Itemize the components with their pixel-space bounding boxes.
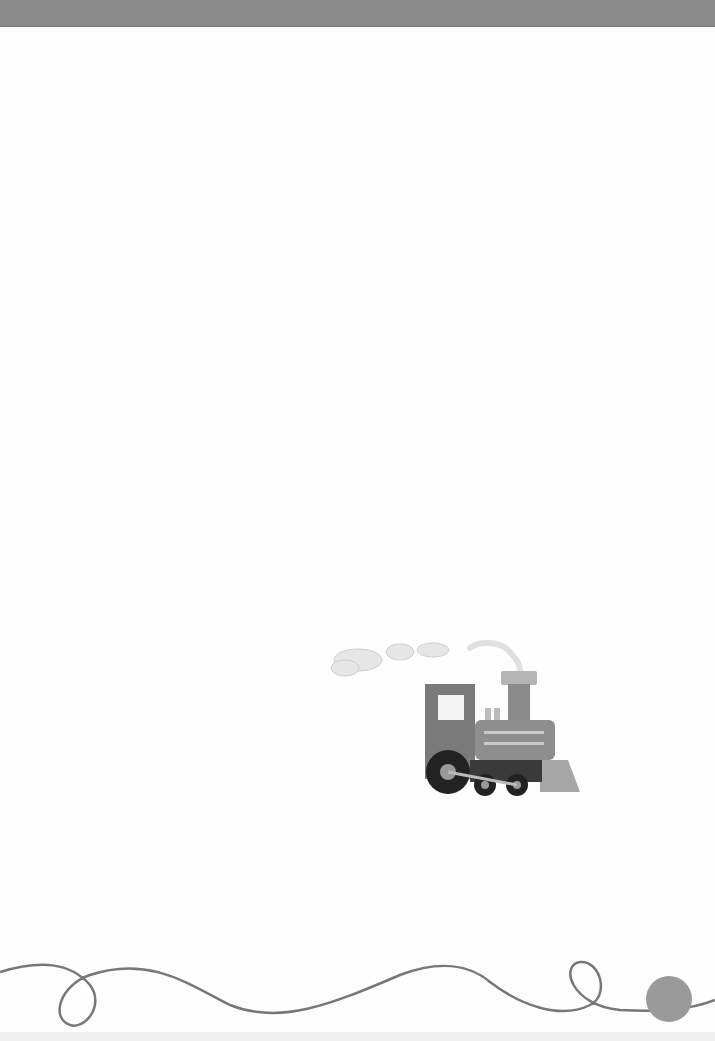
locomotive-icon bbox=[425, 671, 580, 796]
train-illustration bbox=[0, 0, 715, 1041]
decorative-squiggle-line bbox=[0, 962, 715, 1026]
smoke-trail-icon bbox=[470, 643, 520, 672]
page-number-badge bbox=[646, 976, 692, 1022]
smoke-cloud-icon bbox=[331, 643, 449, 676]
footer-band bbox=[0, 1032, 715, 1041]
